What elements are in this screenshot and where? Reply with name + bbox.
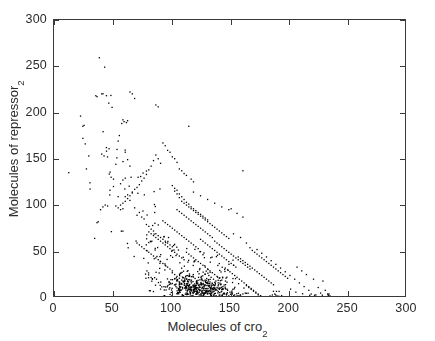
y-axis-label-subscript: 2 xyxy=(14,80,25,85)
y-tick-right-250 xyxy=(400,66,405,67)
x-tick-0 xyxy=(54,291,55,296)
x-tick-top-50 xyxy=(113,20,114,25)
y-axis-label-text: Molecules of repressor xyxy=(5,85,20,217)
scatter-points-canvas xyxy=(54,20,406,297)
y-tick-right-50 xyxy=(400,252,405,253)
x-tick-top-250 xyxy=(348,20,349,25)
x-tick-top-150 xyxy=(231,20,232,25)
y-tick-right-300 xyxy=(400,20,405,21)
y-tick-right-150 xyxy=(400,159,405,160)
x-tick-label-150: 150 xyxy=(219,301,240,315)
x-tick-label-300: 300 xyxy=(395,301,416,315)
y-tick-50 xyxy=(54,252,59,253)
plot-area xyxy=(53,19,406,297)
x-tick-200 xyxy=(289,291,290,296)
y-tick-250 xyxy=(54,66,59,67)
y-tick-right-200 xyxy=(400,113,405,114)
x-axis-label-subscript: 2 xyxy=(262,328,267,339)
x-tick-label-200: 200 xyxy=(278,301,299,315)
y-tick-right-100 xyxy=(400,205,405,206)
scatter-plot-figure: 050100150200250300 050100150200250300 Mo… xyxy=(0,0,435,341)
y-axis-label-container: Molecules of repressor2 xyxy=(0,0,28,297)
x-tick-label-0: 0 xyxy=(49,301,56,315)
y-tick-300 xyxy=(54,20,59,21)
x-tick-250 xyxy=(348,291,349,296)
y-axis-label: Molecules of repressor2 xyxy=(5,80,23,217)
x-tick-label-250: 250 xyxy=(336,301,357,315)
y-tick-100 xyxy=(54,205,59,206)
x-axis-label-text: Molecules of cro xyxy=(168,319,263,334)
x-tick-label-50: 50 xyxy=(105,301,119,315)
y-tick-150 xyxy=(54,159,59,160)
x-tick-150 xyxy=(231,291,232,296)
x-axis-label: Molecules of cro2 xyxy=(0,319,435,337)
y-tick-200 xyxy=(54,113,59,114)
x-tick-label-100: 100 xyxy=(160,301,181,315)
x-tick-top-200 xyxy=(289,20,290,25)
x-tick-100 xyxy=(172,291,173,296)
x-tick-50 xyxy=(113,291,114,296)
x-tick-top-100 xyxy=(172,20,173,25)
